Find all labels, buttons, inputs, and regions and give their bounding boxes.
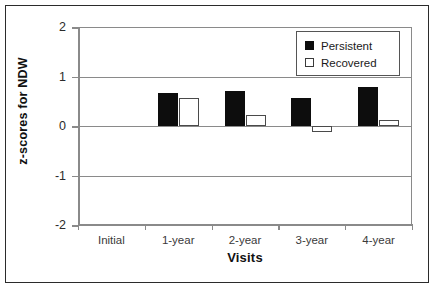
x-axis-line bbox=[78, 224, 412, 226]
y-tick-mark-2 bbox=[72, 27, 79, 29]
x-axis-title: Visits bbox=[78, 250, 412, 265]
gridline-y-1 bbox=[78, 77, 412, 78]
legend: Persistent Recovered bbox=[296, 31, 400, 76]
x-tick-mark-3 bbox=[278, 224, 279, 230]
bar-recovered-2-year bbox=[246, 115, 266, 126]
legend-swatch-recovered-icon bbox=[305, 58, 314, 67]
gridline-y-2 bbox=[78, 27, 412, 28]
bar-persistent-4-year bbox=[358, 87, 378, 126]
legend-item-persistent: Persistent bbox=[305, 37, 399, 54]
y-tick-label-2: 2 bbox=[26, 21, 66, 34]
legend-label-recovered: Recovered bbox=[321, 57, 377, 69]
legend-swatch-persistent-icon bbox=[305, 41, 314, 50]
gridline-y--1 bbox=[78, 176, 412, 177]
x-tick-label-1-year: 1-year bbox=[143, 234, 213, 246]
chart-figure: z-scores for NDW Visits Persistent Recov… bbox=[0, 0, 435, 289]
x-tick-label-4-year: 4-year bbox=[344, 234, 414, 246]
gridline-y-0 bbox=[78, 126, 412, 127]
x-tick-mark-1 bbox=[145, 224, 146, 230]
bar-persistent-3-year bbox=[291, 98, 311, 126]
legend-item-recovered: Recovered bbox=[305, 54, 399, 71]
bar-recovered-4-year bbox=[379, 120, 399, 126]
x-tick-mark-edge-0 bbox=[78, 224, 79, 230]
y-tick-mark-0 bbox=[72, 126, 79, 128]
legend-label-persistent: Persistent bbox=[321, 40, 372, 52]
x-tick-label-initial: Initial bbox=[76, 234, 146, 246]
y-tick-mark--1 bbox=[72, 176, 79, 178]
bar-persistent-1-year bbox=[158, 93, 178, 126]
y-tick-label-0: 0 bbox=[26, 120, 66, 133]
x-tick-mark-edge-5 bbox=[412, 224, 413, 230]
x-tick-label-3-year: 3-year bbox=[277, 234, 347, 246]
y-tick-label-1: 1 bbox=[26, 71, 66, 84]
y-tick-mark-1 bbox=[72, 77, 79, 79]
bar-recovered-3-year bbox=[312, 126, 332, 132]
plot-right-border bbox=[411, 27, 412, 225]
x-tick-mark-4 bbox=[345, 224, 346, 230]
y-tick-label--1: -1 bbox=[26, 170, 66, 183]
x-tick-label-2-year: 2-year bbox=[210, 234, 280, 246]
bar-persistent-2-year bbox=[225, 91, 245, 126]
bar-recovered-1-year bbox=[179, 98, 199, 126]
y-tick-label--2: -2 bbox=[26, 219, 66, 232]
x-tick-mark-2 bbox=[212, 224, 213, 230]
